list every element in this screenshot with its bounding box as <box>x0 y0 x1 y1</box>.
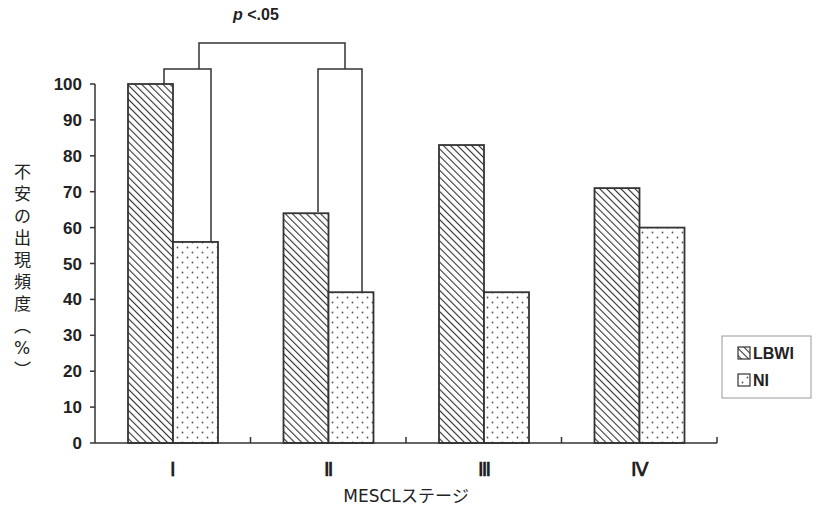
y-axis: 0102030405060708090100 <box>54 75 95 453</box>
y-axis-title-char: 不 <box>14 162 31 182</box>
significance-bracket-outer <box>199 43 345 69</box>
y-axis-title: 不安の出現頻度︵%︶ <box>14 162 31 380</box>
y-tick-label: 100 <box>54 75 82 94</box>
y-axis-title-char: ︵ <box>14 316 31 336</box>
bar-ni-iii <box>484 292 529 443</box>
y-tick-label: 40 <box>63 290 82 309</box>
x-axis-title: MESCLステージ <box>343 486 469 506</box>
y-axis-title-char: 頻 <box>14 272 31 292</box>
y-axis-title-char: 現 <box>14 250 31 270</box>
y-axis-title-char: ︶ <box>14 360 31 380</box>
legend-item-ni: NI <box>738 372 769 389</box>
y-tick-label: 80 <box>63 147 82 166</box>
y-tick-label: 10 <box>63 398 82 417</box>
y-tick-label: 60 <box>63 219 82 238</box>
x-category-label: Ⅰ <box>170 459 176 480</box>
y-tick-label: 30 <box>63 326 82 345</box>
y-axis-title-char: 度 <box>14 294 31 314</box>
significance-label: p <.05 <box>232 6 279 23</box>
x-category-label: Ⅲ <box>478 459 491 480</box>
p-threshold: <.05 <box>243 6 279 23</box>
legend-label-lbwi: LBWI <box>753 345 794 362</box>
x-category-label: Ⅳ <box>631 459 649 480</box>
bar-ni-ii <box>329 292 374 443</box>
bar-lbwi-iii <box>439 145 484 443</box>
p-symbol: p <box>232 6 243 23</box>
hatch-swatch-icon <box>738 347 750 359</box>
bar-lbwi-i <box>128 84 173 443</box>
x-category-label: Ⅱ <box>324 459 333 480</box>
bar-chart: p <.05 不安の出現頻度︵%︶ 0102030405060708090100… <box>0 0 822 528</box>
y-axis-title-char: 安 <box>14 184 31 204</box>
y-tick-label: 20 <box>63 362 82 381</box>
legend: LBWI NI <box>722 336 811 398</box>
y-tick-label: 0 <box>73 434 82 453</box>
y-axis-title-char: % <box>14 338 30 358</box>
dots-swatch-icon <box>738 374 750 386</box>
y-axis-title-char: 出 <box>14 228 31 248</box>
y-tick-label: 50 <box>63 255 82 274</box>
bar-lbwi-ii <box>284 213 329 443</box>
legend-item-lbwi: LBWI <box>738 345 794 362</box>
y-tick-label: 70 <box>63 183 82 202</box>
bar-lbwi-iv <box>595 188 640 443</box>
y-tick-label: 90 <box>63 111 82 130</box>
x-axis: ⅠⅡⅢⅣ <box>95 437 717 480</box>
y-axis-title-char: の <box>14 206 31 226</box>
bar-ni-iv <box>640 228 685 443</box>
legend-label-ni: NI <box>753 372 769 389</box>
bar-ni-i <box>173 242 218 443</box>
